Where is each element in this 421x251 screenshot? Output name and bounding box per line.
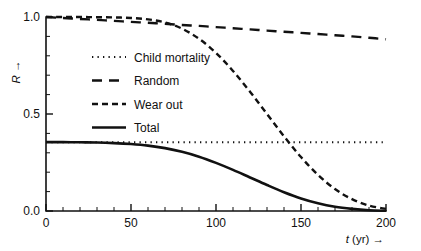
legend-label-total: Total: [134, 121, 159, 135]
y-axis-title: R →: [10, 60, 22, 83]
x-axis-tick-label: 150: [291, 216, 311, 230]
x-axis-tick-label: 100: [206, 216, 226, 230]
figure-container: 0501001502000.00.51.0 Child mortalityRan…: [0, 0, 421, 251]
y-axis-tick-label: 1.0: [23, 10, 40, 24]
x-axis-tick-label: 50: [124, 216, 138, 230]
legend-label-child-mortality: Child mortality: [134, 51, 210, 65]
axis-lines: [46, 17, 386, 211]
x-axis-title: t (yr) →: [346, 233, 384, 245]
axis-titles: t (yr) →R →: [10, 60, 384, 245]
series-line-total: [46, 142, 386, 211]
axes: 0501001502000.00.51.0: [23, 10, 396, 230]
y-axis-tick-label: 0.0: [23, 204, 40, 218]
chart-legend: Child mortalityRandomWear outTotal: [92, 51, 210, 136]
legend-label-wear-out: Wear out: [134, 98, 183, 112]
series-line-random: [46, 17, 386, 39]
line-chart: 0501001502000.00.51.0 Child mortalityRan…: [0, 0, 421, 251]
data-series-group: [46, 17, 386, 211]
legend-label-random: Random: [134, 74, 179, 88]
x-axis-tick-label: 0: [43, 216, 50, 230]
y-axis-tick-label: 0.5: [23, 107, 40, 121]
x-axis-tick-label: 200: [376, 216, 396, 230]
series-line-wear-out: [46, 17, 386, 209]
